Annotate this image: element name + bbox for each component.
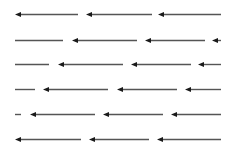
left-arrow-icon xyxy=(103,112,163,117)
left-arrow-icon xyxy=(15,12,78,17)
left-arrow-icon xyxy=(30,112,95,117)
left-arrow-icon xyxy=(43,87,108,92)
left-arrow-icon xyxy=(185,87,221,92)
left-arrows-pattern xyxy=(0,0,234,154)
arrow-row-3 xyxy=(15,62,221,67)
left-arrow-icon xyxy=(117,87,177,92)
left-arrow-icon xyxy=(58,62,123,67)
left-arrow-icon xyxy=(72,38,137,43)
left-arrow-icon xyxy=(15,137,81,142)
left-arrow-icon xyxy=(171,112,221,117)
left-arrow-icon xyxy=(89,137,149,142)
arrow-row-4 xyxy=(15,87,221,92)
left-arrow-icon xyxy=(131,62,191,67)
arrow-row-2 xyxy=(15,38,221,43)
arrow-row-1 xyxy=(15,12,221,17)
left-arrow-icon xyxy=(157,137,221,142)
arrow-row-5 xyxy=(15,112,221,117)
left-arrow-icon xyxy=(86,12,152,17)
left-arrow-icon xyxy=(198,62,221,67)
left-arrow-icon xyxy=(145,38,205,43)
arrow-row-6 xyxy=(15,137,221,142)
left-arrow-icon xyxy=(212,38,221,43)
arrow-field-diagram xyxy=(0,0,234,154)
left-arrow-icon xyxy=(158,12,221,17)
